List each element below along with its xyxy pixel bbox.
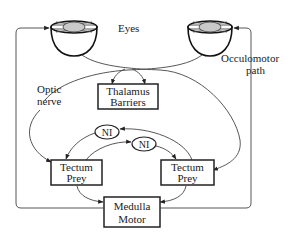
medulla-motor-node: Medulla Motor <box>104 197 160 227</box>
ni-upper-label: NI <box>102 127 113 138</box>
optic-nerve-label-2: nerve <box>37 95 62 107</box>
tectum-right-node: Tectum Prey <box>161 160 214 185</box>
ni-upper-node: NI <box>95 125 119 139</box>
prey-left-label: Prey <box>66 172 87 184</box>
tectum-left-node: Tectum Prey <box>51 160 102 185</box>
barriers-label: Barriers <box>110 96 145 108</box>
right-eye-icon <box>188 21 232 56</box>
left-eye-icon <box>51 21 97 56</box>
motor-label: Motor <box>118 213 146 225</box>
ni-lower-node: NI <box>132 137 156 151</box>
occulomotor-label-2: path <box>246 64 265 76</box>
occulomotor-label: Occulomotor <box>221 52 279 64</box>
optic-nerve-paths <box>29 55 240 170</box>
visual-system-diagram: Eyes Optic nerve Occulomotor path Thalam… <box>0 0 296 237</box>
ni-connections <box>66 129 192 160</box>
prey-right-label: Prey <box>177 172 198 184</box>
optic-nerve-label: Optic <box>37 83 62 95</box>
ni-lower-label: NI <box>139 139 150 150</box>
medulla-label: Medulla <box>114 200 151 212</box>
eyes-label: Eyes <box>118 22 139 34</box>
thalamus-barriers-node: Thalamus Barriers <box>98 84 158 109</box>
